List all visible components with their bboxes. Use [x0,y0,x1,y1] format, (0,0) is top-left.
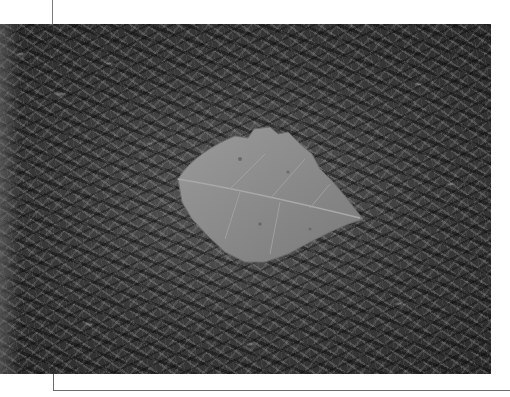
leaf [170,124,365,264]
photo-leaf-on-moss [0,24,491,374]
crop-mark-top [52,0,53,24]
crop-mark-bottom-horizontal [53,390,510,391]
photo-left-edge-blur [0,24,20,374]
crop-mark-bottom-vertical [53,374,54,391]
leaf-shape [170,124,365,264]
